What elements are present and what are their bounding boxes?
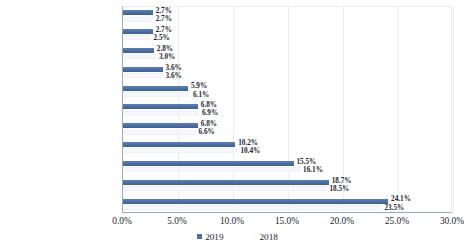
data-label-2019: 6.8% — [201, 101, 217, 109]
data-label-2019: 15.5% — [297, 158, 317, 166]
chart-legend: 20192018 — [0, 232, 475, 242]
data-label-2018: 6.9% — [202, 109, 218, 117]
bar-row: 6.8%6.6% — [123, 120, 451, 139]
data-label-2019: 2.7% — [156, 26, 172, 34]
data-label-2018: 23.5% — [385, 204, 405, 212]
bar-2019[interactable] — [123, 123, 198, 128]
bar-row: 3.6%3.6% — [123, 63, 451, 82]
legend-label: 2019 — [205, 232, 223, 242]
x-axis-tick-label: 20.0% — [312, 216, 372, 226]
data-label-2018: 6.1% — [193, 91, 209, 99]
bar-2019[interactable] — [123, 86, 188, 91]
bar-2018[interactable] — [123, 148, 237, 153]
bar-2019[interactable] — [123, 29, 153, 34]
legend-item-2018[interactable]: 2018 — [252, 232, 278, 242]
legend-item-2019[interactable]: 2019 — [197, 232, 223, 242]
bar-2018[interactable] — [123, 111, 199, 116]
data-label-2018: 16.1% — [303, 166, 323, 174]
bar-row: 10.2%10.4% — [123, 139, 451, 158]
data-label-2019: 24.1% — [391, 195, 411, 203]
bar-2019[interactable] — [123, 10, 153, 15]
bar-row: 6.8%6.9% — [123, 101, 451, 120]
data-label-2019: 18.7% — [332, 177, 352, 185]
bar-2019[interactable] — [123, 67, 163, 72]
bar-row: 2.8%3.0% — [123, 45, 451, 64]
bar-row: 2.7%2.7% — [123, 7, 451, 26]
x-axis-tick-label: 15.0% — [257, 216, 317, 226]
bar-row: 5.9%6.1% — [123, 82, 451, 101]
bar-row: 24.1%23.5% — [123, 195, 451, 214]
bar-2019[interactable] — [123, 180, 329, 185]
data-label-2018: 6.6% — [199, 128, 215, 136]
bar-2018[interactable] — [123, 186, 327, 191]
data-label-2018: 3.0% — [159, 53, 175, 61]
bar-2018[interactable] — [123, 73, 163, 78]
data-label-2019: 10.2% — [238, 139, 258, 147]
data-label-2018: 3.6% — [166, 72, 182, 80]
data-label-2018: 2.7% — [156, 15, 172, 23]
data-label-2019: 6.8% — [201, 120, 217, 128]
gridline — [453, 7, 454, 212]
bar-2018[interactable] — [123, 54, 156, 59]
bar-row: 18.7%18.5% — [123, 176, 451, 195]
bar-row: 15.5%16.1% — [123, 158, 451, 177]
bar-chart: 2.7%2.7%2.7%2.5%2.8%3.0%3.6%3.6%5.9%6.1%… — [0, 0, 475, 252]
bar-2019[interactable] — [123, 161, 294, 166]
x-axis-tick-label: 10.0% — [202, 216, 262, 226]
bar-2018[interactable] — [123, 35, 151, 40]
x-axis-tick-label: 25.0% — [367, 216, 427, 226]
bar-2018[interactable] — [123, 17, 153, 22]
bar-2019[interactable] — [123, 142, 235, 147]
legend-label: 2018 — [260, 232, 278, 242]
bar-2019[interactable] — [123, 199, 388, 204]
bar-2018[interactable] — [123, 167, 300, 172]
x-axis-tick-label: 0.0% — [92, 216, 152, 226]
data-label-2019: 2.8% — [157, 45, 173, 53]
x-axis-tick-label: 30.0% — [422, 216, 475, 226]
legend-swatch-icon — [197, 234, 202, 239]
data-label-2019: 2.7% — [156, 7, 172, 15]
data-label-2019: 3.6% — [166, 64, 182, 72]
bar-2019[interactable] — [123, 104, 198, 109]
data-label-2018: 2.5% — [154, 34, 170, 42]
bar-row: 2.7%2.5% — [123, 26, 451, 45]
bar-2019[interactable] — [123, 48, 154, 53]
legend-swatch-icon — [252, 234, 257, 239]
bar-2018[interactable] — [123, 205, 382, 210]
bar-2018[interactable] — [123, 130, 196, 135]
plot-area: 2.7%2.7%2.7%2.5%2.8%3.0%3.6%3.6%5.9%6.1%… — [122, 6, 452, 213]
x-axis-tick-label: 5.0% — [147, 216, 207, 226]
data-label-2019: 5.9% — [191, 82, 207, 90]
data-label-2018: 18.5% — [330, 185, 350, 193]
bar-2018[interactable] — [123, 92, 190, 97]
data-label-2018: 10.4% — [240, 147, 260, 155]
